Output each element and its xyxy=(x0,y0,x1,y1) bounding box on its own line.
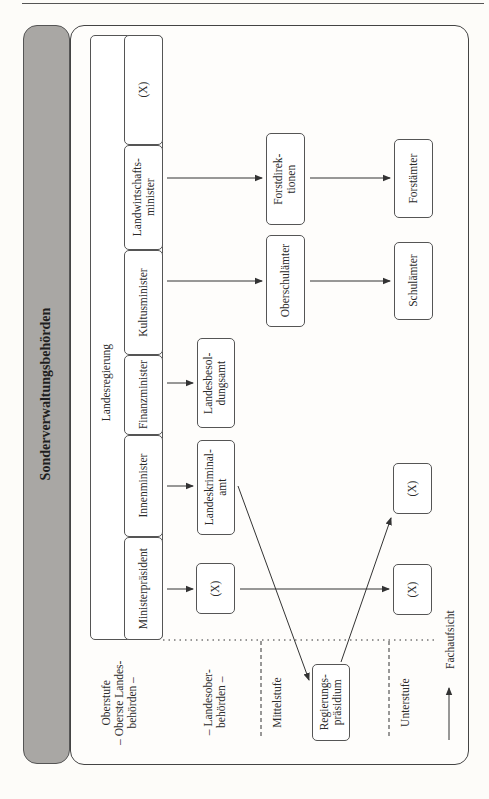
arrow-icon xyxy=(238,486,309,680)
connector-lines xyxy=(0,0,489,799)
